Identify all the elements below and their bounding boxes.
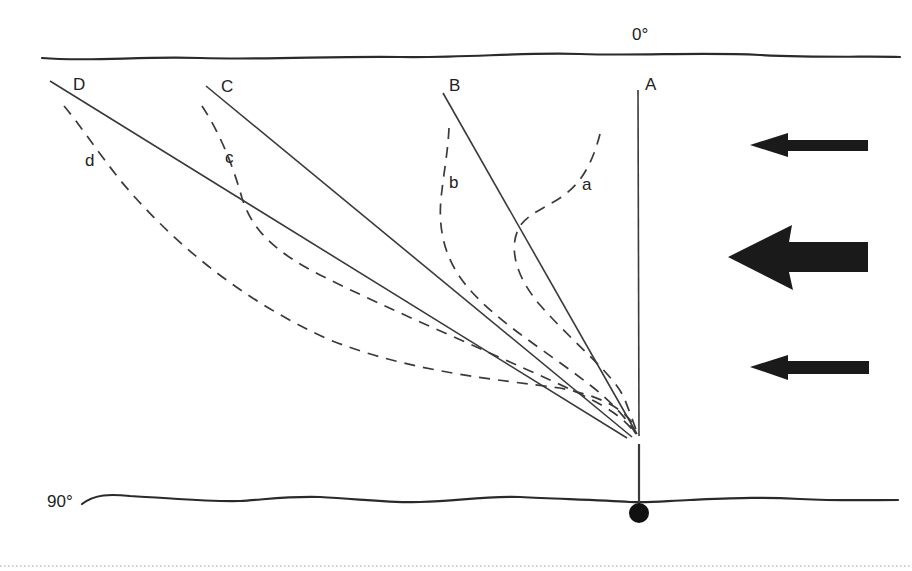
curved-line-a: a	[514, 134, 637, 432]
anchor-ball	[629, 503, 649, 523]
straight-line-B: B	[443, 76, 637, 434]
straight-line-D: D	[50, 75, 627, 438]
curved-line-c: c	[202, 106, 634, 432]
diagram-canvas: 0° 90° A B C D a b c d	[0, 0, 912, 571]
bottom-angle-label: 90°	[47, 492, 73, 511]
line-label-A: A	[645, 75, 657, 94]
top-angle-label: 0°	[632, 25, 648, 44]
curve-label-d: d	[85, 151, 94, 170]
flow-arrow-middle-icon	[728, 225, 868, 290]
bottom-surface-line	[82, 495, 898, 504]
line-label-D: D	[73, 75, 85, 94]
line-label-C: C	[221, 77, 233, 96]
line-label-B: B	[449, 76, 460, 95]
straight-line-C: C	[206, 77, 632, 437]
curved-line-b: b	[440, 128, 636, 434]
straight-line-A: A	[638, 75, 657, 436]
flow-arrow-bottom-icon	[750, 355, 869, 380]
top-surface-line	[42, 54, 900, 60]
curve-label-a: a	[582, 175, 592, 194]
curve-label-c: c	[225, 148, 234, 167]
flow-arrow-top-icon	[750, 133, 868, 157]
curve-label-b: b	[449, 173, 458, 192]
